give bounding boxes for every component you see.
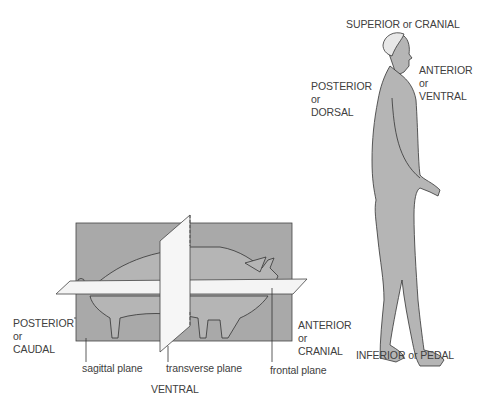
label-anterior-line3: VENTRAL [419, 90, 472, 103]
label-posterior-caudal: POSTERIOR or CAUDAL [13, 317, 74, 356]
label-cranial-line2: or [298, 332, 351, 345]
label-caudal-line2: or [13, 330, 74, 343]
label-anterior-cranial: ANTERIOR or CRANIAL [298, 319, 351, 358]
label-anterior-ventral: ANTERIOR or VENTRAL [419, 64, 472, 103]
label-ventral: VENTRAL [151, 383, 199, 396]
label-superior: SUPERIOR or CRANIAL [346, 18, 460, 31]
pig-diagram [56, 215, 307, 362]
label-posterior-line2: or [311, 93, 372, 106]
label-cranial-line3: CRANIAL [298, 345, 351, 358]
label-posterior-line1: POSTERIOR [311, 80, 372, 93]
label-posterior-dorsal: POSTERIOR or DORSAL [311, 80, 372, 119]
label-sagittal-plane: sagittal plane [82, 362, 142, 375]
label-cranial-line1: ANTERIOR [298, 319, 351, 332]
label-caudal-line3: CAUDAL [13, 343, 74, 356]
label-anterior-line2: or [419, 77, 472, 90]
label-frontal-plane: frontal plane [270, 364, 327, 377]
human-body [372, 66, 444, 366]
label-posterior-line3: DORSAL [311, 106, 372, 119]
label-inferior: INFERIOR or PEDAL [356, 349, 454, 362]
label-caudal-line1: POSTERIOR [13, 317, 74, 330]
label-transverse-plane: transverse plane [166, 362, 242, 375]
label-anterior-line1: ANTERIOR [419, 64, 472, 77]
